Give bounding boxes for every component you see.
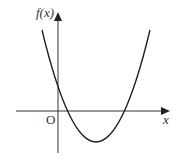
y-axis-label: f(x) bbox=[36, 5, 54, 20]
origin-label: O bbox=[46, 112, 55, 127]
y-axis-arrow-icon bbox=[54, 12, 62, 21]
graph: f(x) x O bbox=[0, 0, 185, 164]
x-axis-label: x bbox=[162, 112, 169, 127]
